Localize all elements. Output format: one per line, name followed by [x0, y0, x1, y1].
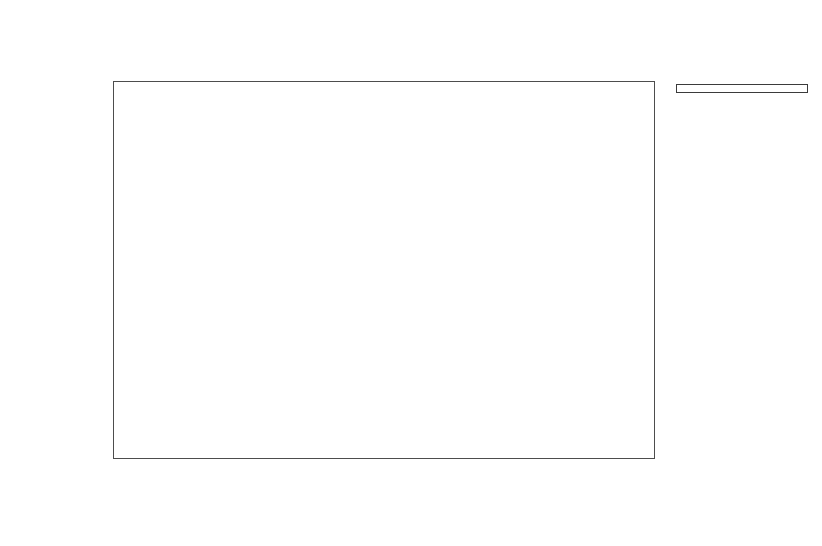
plot-area [113, 81, 655, 459]
statistics-box [676, 84, 808, 93]
reference-line [114, 82, 656, 460]
figure-caption [0, 533, 822, 546]
probability-plot-figure [0, 0, 822, 546]
